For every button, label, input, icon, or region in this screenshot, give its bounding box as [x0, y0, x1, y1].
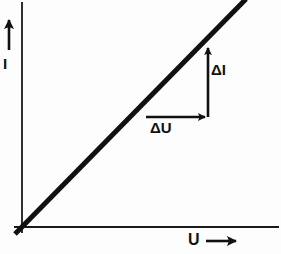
characteristic-line: [15, 0, 246, 234]
delta-i-label: ΔI: [211, 62, 226, 77]
figure-canvas: [0, 0, 281, 254]
y-axis-label: I: [3, 56, 7, 71]
x-axis-label: U: [188, 232, 200, 248]
delta-u-label: ΔU: [150, 120, 172, 135]
physics-figure: I U ΔI ΔU: [0, 0, 281, 254]
